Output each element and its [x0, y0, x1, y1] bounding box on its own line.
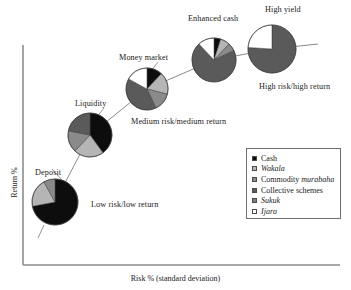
- pie-deposit: [32, 179, 78, 225]
- legend-label: Collective schemes: [261, 186, 323, 195]
- pie-money-market: [126, 68, 168, 110]
- pie-high-yield: [248, 25, 296, 73]
- legend-swatch-icon: [252, 177, 257, 182]
- label-medium-risk-medium-return: Medium risk/medium return: [131, 117, 226, 126]
- y-axis-label: Return %: [10, 153, 19, 213]
- legend-item-collective-schemes: Collective schemes: [252, 185, 340, 196]
- legend: CashWakalaCommodity murabahaCollective s…: [246, 148, 341, 219]
- chart-figure: Enhanced cash High yield Money market Li…: [0, 0, 351, 290]
- legend-item-ijara: Ijara: [252, 206, 340, 217]
- pie-enhanced-cash: [192, 38, 236, 82]
- label-high-yield: High yield: [265, 5, 301, 14]
- legend-label: Commodity murabaha: [261, 175, 334, 184]
- legend-item-commodity-murabaha: Commodity murabaha: [252, 174, 340, 185]
- leader-deposit-lower: [38, 225, 44, 238]
- chart-canvas: [0, 0, 351, 290]
- legend-label: Sukuk: [261, 196, 280, 205]
- legend-swatch-icon: [252, 156, 257, 161]
- legend-swatch-icon: [252, 188, 257, 193]
- label-enhanced-cash: Enhanced cash: [188, 14, 238, 23]
- label-liquidity: Liquidity: [75, 99, 106, 108]
- label-high-risk-high-return: High risk/high return: [259, 82, 330, 91]
- legend-label: Ijara: [261, 207, 277, 216]
- x-axis-label: Risk % (standard deviation): [0, 274, 351, 283]
- pie-liquidity: [68, 113, 112, 157]
- legend-label: Cash: [261, 154, 277, 163]
- label-low-risk-low-return: Low risk/low return: [91, 200, 158, 209]
- legend-swatch-icon: [252, 166, 257, 171]
- legend-item-sukuk: Sukuk: [252, 195, 340, 206]
- label-deposit: Deposit: [35, 168, 61, 177]
- legend-swatch-icon: [252, 209, 257, 214]
- label-money-market: Money market: [119, 53, 168, 62]
- legend-item-wakala: Wakala: [252, 164, 340, 175]
- pie-slice-collective-schemes: [68, 113, 90, 135]
- legend-item-cash: Cash: [252, 153, 340, 164]
- legend-swatch-icon: [252, 198, 257, 203]
- legend-label: Wakala: [261, 164, 285, 173]
